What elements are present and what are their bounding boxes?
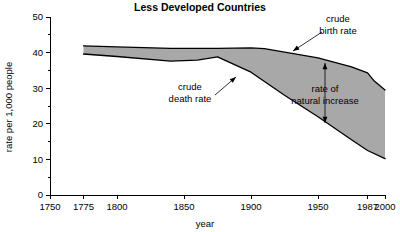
- y-axis-tick-label: 40: [32, 47, 43, 58]
- x-axis-label: year: [196, 218, 214, 229]
- y-axis-tick-label: 10: [32, 154, 43, 165]
- y-axis-tick-label: 30: [32, 83, 43, 94]
- annotation-label: crude: [178, 81, 202, 92]
- annotation-crude-birth-rate: crudebirth rate: [293, 13, 357, 51]
- annotation-label: birth rate: [319, 25, 357, 36]
- y-axis-tick-label: 0: [38, 189, 43, 200]
- x-axis-tick-label: 1800: [106, 201, 127, 212]
- annotation-label: crude: [326, 13, 350, 24]
- annotation-crude-death-rate: crudedeath rate: [169, 77, 236, 104]
- x-axis-tick-label: 1750: [39, 201, 60, 212]
- x-axis-tick-label: 1950: [307, 201, 328, 212]
- less-developed-countries-chart: Less Developed Countries 010203040501750…: [0, 0, 400, 232]
- x-axis-tick-label: 1900: [240, 201, 261, 212]
- annotation-label: death rate: [169, 93, 212, 104]
- y-axis-tick-label: 20: [32, 118, 43, 129]
- chart-title-group: Less Developed Countries: [134, 1, 266, 13]
- x-axis-tick-label: 2000: [374, 201, 395, 212]
- y-axis-tick-label: 50: [32, 11, 43, 22]
- x-axis-tick-label: 1850: [173, 201, 194, 212]
- chart-container: Less Developed Countries 010203040501750…: [0, 0, 400, 232]
- page-title: Less Developed Countries: [134, 1, 266, 13]
- arrowhead-icon: [293, 46, 300, 51]
- y-axis-label: rate per 1,000 people: [3, 62, 14, 152]
- x-axis-tick-label: 1775: [73, 201, 94, 212]
